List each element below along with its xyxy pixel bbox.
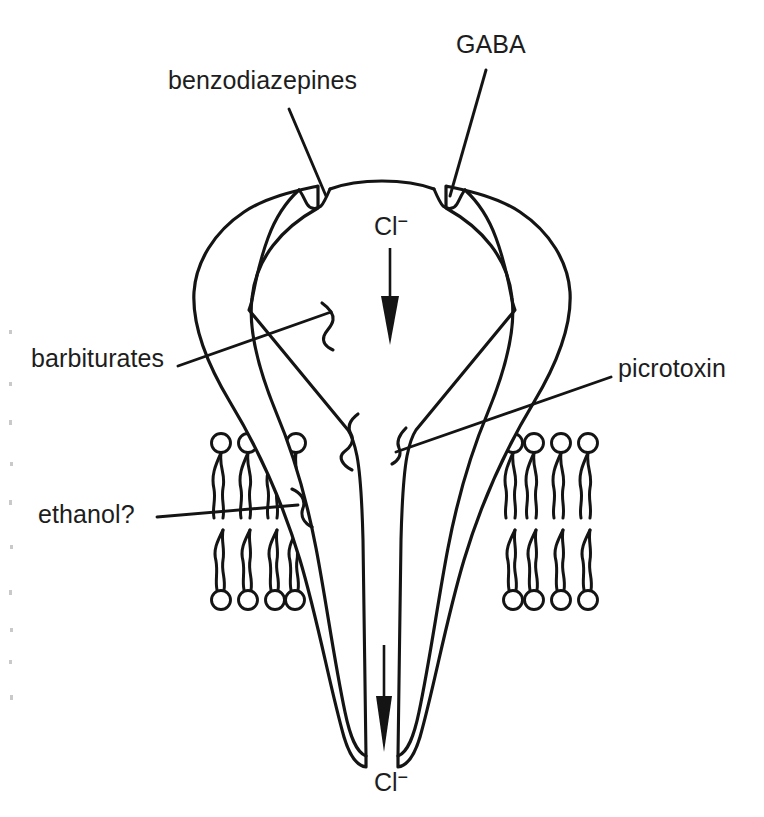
- label-picrotoxin: picrotoxin: [618, 356, 726, 381]
- chloride-flow-arrow-top: [381, 248, 399, 345]
- label-chloride-bottom: Cl−: [374, 768, 408, 795]
- leader-line-gaba: [450, 70, 486, 196]
- label-gaba: GABA: [456, 32, 526, 57]
- membrane-right-lower-leaflet: [504, 530, 598, 610]
- label-chloride-top: Cl−: [374, 212, 408, 239]
- chloride-symbol-top: Cl: [374, 212, 398, 240]
- label-benzodiazepines: benzodiazepines: [168, 68, 357, 93]
- receptor-right-subunit-outline: [398, 186, 570, 767]
- label-ethanol: ethanol?: [38, 502, 135, 527]
- label-barbiturates: barbiturates: [31, 346, 164, 371]
- leader-line-benzodiazepines: [289, 109, 326, 196]
- chloride-charge-top: −: [398, 211, 409, 231]
- figure-root: benzodiazepines GABA barbiturates picrot…: [0, 0, 764, 817]
- chloride-charge-bottom: −: [398, 767, 409, 787]
- scan-artifacts: [9, 330, 13, 700]
- membrane-left-lower-leaflet: [212, 530, 305, 610]
- chloride-flow-arrow-bottom: [376, 645, 392, 752]
- binding-notch-barbiturates: [322, 303, 333, 350]
- receptor-left-subunit-outline: [194, 186, 366, 767]
- membrane-bilayer-right: [504, 434, 598, 610]
- binding-notch-picrotoxin-right: [392, 428, 406, 464]
- chloride-symbol-bottom: Cl: [374, 768, 398, 796]
- receptor-top-cap: [330, 181, 434, 189]
- receptor-channel-diagram: [0, 0, 764, 817]
- membrane-right-upper-leaflet: [504, 434, 598, 519]
